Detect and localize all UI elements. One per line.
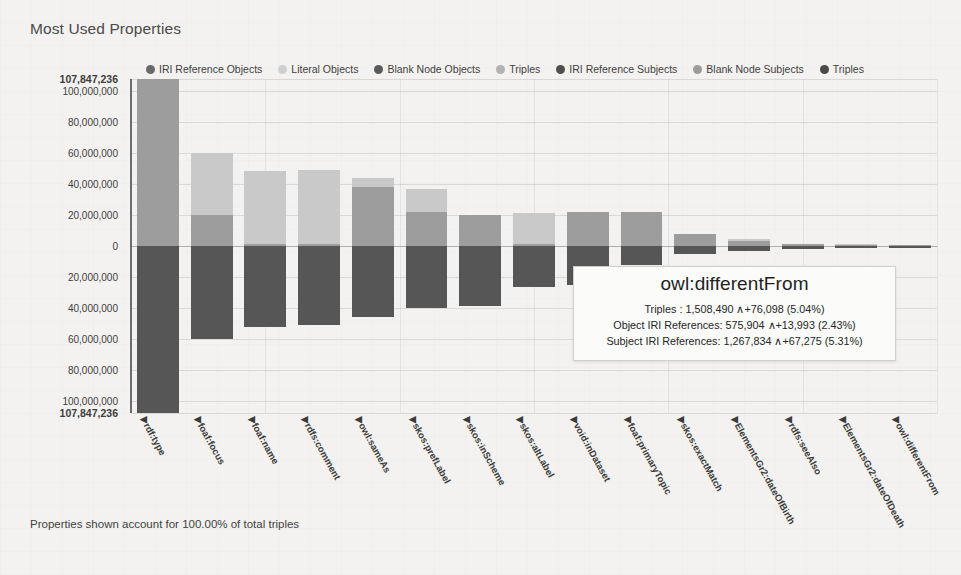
bar-segment-above[interactable] (621, 212, 663, 246)
bar-column[interactable] (137, 79, 179, 413)
x-axis-tick-label[interactable]: ◀owl:sameAs (352, 413, 393, 475)
bar-segment-above[interactable] (406, 189, 448, 212)
x-axis-label-text: foaf:focus (196, 421, 228, 466)
x-axis-label-text: skos:prefLabel (411, 421, 453, 485)
x-axis-label-text: skos:altLabel (518, 421, 557, 479)
x-axis-tick-label[interactable]: ◀rdf:type (137, 413, 168, 457)
bar-segment-below[interactable] (191, 246, 233, 339)
y-axis-tick-label: 100,000,000 (62, 395, 118, 406)
bar-segment-below[interactable] (137, 246, 179, 413)
y-axis-tick-label: 80,000,000 (68, 117, 118, 128)
bar-segment-above[interactable] (191, 215, 233, 246)
legend-swatch-icon (374, 65, 383, 74)
x-axis-tick-label[interactable]: ◀skos:prefLabel (406, 413, 453, 485)
legend-label: Triples (509, 63, 540, 75)
triangle-marker-icon: ◀ (248, 414, 255, 424)
bar-segment-below[interactable] (728, 246, 770, 251)
bar-segment-above[interactable] (835, 244, 877, 245)
x-axis-tick-label[interactable]: ◀foaf:focus (191, 413, 227, 466)
bar-segment-above[interactable] (728, 239, 770, 241)
tooltip-row-subject-iri: Subject IRI References: 1,267,834 ∧+67,2… (574, 333, 895, 349)
legend-swatch-icon (820, 65, 829, 74)
bar-segment-below[interactable] (406, 246, 448, 308)
x-axis-tick-label[interactable]: ◀skos:exactMatch (675, 413, 726, 493)
bar-segment-above[interactable] (191, 153, 233, 215)
legend-label: Blank Node Objects (387, 63, 480, 75)
bar-column[interactable] (782, 79, 824, 413)
bar-segment-below[interactable] (782, 246, 824, 249)
y-axis-tick-label: 100,000,000 (62, 86, 118, 97)
bar-segment-below[interactable] (298, 246, 340, 325)
legend-label: IRI Reference Objects (159, 63, 262, 75)
chart-tooltip: owl:differentFrom Triples : 1,508,490 ∧+… (573, 266, 896, 361)
x-axis-label-text: owl:sameAs (357, 421, 393, 475)
x-axis-tick-label[interactable]: ◀ElementsGr2:dateOfBirth (729, 413, 798, 526)
bar-segment-below[interactable] (889, 246, 931, 248)
y-axis-tick-label: 60,000,000 (68, 333, 118, 344)
bar-column[interactable] (889, 79, 931, 413)
plot-area[interactable] (131, 79, 937, 413)
x-axis-tick-label[interactable]: ◀rdfs:seeAlso (782, 413, 824, 477)
bar-segment-below[interactable] (513, 246, 555, 287)
bar-segment-below[interactable] (352, 246, 394, 317)
bar-segment-above[interactable] (137, 79, 179, 246)
x-axis-label-text: foaf:name (249, 421, 281, 466)
legend-label: Triples (833, 63, 864, 75)
bar-segment-below[interactable] (835, 246, 877, 248)
y-axis-tick-label: 0 (112, 241, 118, 252)
y-axis-tick-label: 20,000,000 (68, 210, 118, 221)
x-axis-tick-label[interactable]: ◀foaf:name (245, 413, 281, 466)
x-axis-label-text: foaf:primaryTopic (625, 421, 673, 496)
bar-column[interactable] (674, 79, 716, 413)
x-axis-labels: ◀rdf:type◀foaf:focus◀foaf:name◀rdfs:comm… (131, 413, 961, 523)
bar-segment-above[interactable] (674, 234, 716, 246)
bar-column[interactable] (621, 79, 663, 413)
x-axis-tick-label[interactable]: ◀foaf:primaryTopic (621, 413, 674, 496)
bar-segment-above[interactable] (244, 171, 286, 244)
bar-segment-above[interactable] (298, 170, 340, 244)
bar-segment-above[interactable] (352, 187, 394, 246)
bar-segment-above[interactable] (352, 178, 394, 187)
legend-item[interactable]: IRI Reference Objects (146, 63, 262, 75)
legend-item[interactable]: Blank Node Subjects (693, 63, 803, 75)
bar-column[interactable] (244, 79, 286, 413)
x-axis-tick-label[interactable]: ◀skos:inScheme (460, 413, 508, 487)
bar-column[interactable] (191, 79, 233, 413)
legend-item[interactable]: Triples (820, 63, 864, 75)
bar-segment-below[interactable] (244, 246, 286, 327)
bar-column[interactable] (513, 79, 555, 413)
bar-segment-below[interactable] (621, 246, 663, 265)
x-axis-tick-label[interactable]: ◀void:inDataset (567, 413, 613, 483)
bar-segment-below[interactable] (674, 246, 716, 254)
bar-segment-above[interactable] (459, 215, 501, 246)
x-axis-tick-label[interactable]: ◀rdfs:comment (299, 413, 344, 482)
bar-column[interactable] (835, 79, 877, 413)
y-axis-tick-label: 40,000,000 (68, 179, 118, 190)
bar-segment-above[interactable] (406, 212, 448, 246)
bar-segment-above[interactable] (513, 213, 555, 245)
bar-segment-above[interactable] (567, 212, 609, 246)
legend-item[interactable]: Blank Node Objects (374, 63, 480, 75)
legend-label: Blank Node Subjects (706, 63, 803, 75)
bar-column[interactable] (567, 79, 609, 413)
bar-column[interactable] (459, 79, 501, 413)
x-axis-tick-label[interactable]: ◀skos:altLabel (514, 413, 557, 479)
legend-swatch-icon (496, 65, 505, 74)
bar-segment-below[interactable] (459, 246, 501, 306)
y-axis-tick-label: 20,000,000 (68, 271, 118, 282)
triangle-marker-icon: ◀ (409, 414, 416, 424)
legend-item[interactable]: Literal Objects (278, 63, 358, 75)
triangle-marker-icon: ◀ (839, 414, 846, 424)
triangle-marker-icon: ◀ (194, 414, 201, 424)
bar-column[interactable] (298, 79, 340, 413)
legend-item[interactable]: Triples (496, 63, 540, 75)
bar-column[interactable] (406, 79, 448, 413)
x-axis-label-text: void:inDataset (572, 421, 613, 484)
page-title: Most Used Properties (30, 20, 181, 38)
bar-column[interactable] (352, 79, 394, 413)
y-axis-tick-label: 60,000,000 (68, 148, 118, 159)
bar-column[interactable] (728, 79, 770, 413)
tooltip-title: owl:differentFrom (574, 273, 895, 295)
x-axis-tick-label[interactable]: ◀owl:differentFrom (890, 413, 943, 497)
legend-item[interactable]: IRI Reference Subjects (556, 63, 677, 75)
